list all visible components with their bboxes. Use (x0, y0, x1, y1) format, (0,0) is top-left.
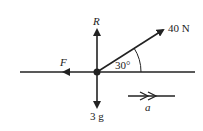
angle-arc (134, 48, 141, 72)
angle-label: 30° (115, 59, 130, 71)
particle (94, 69, 101, 76)
weight-label: 3 g (90, 110, 104, 122)
applied-force-label: 40 N (168, 22, 190, 34)
force-diagram: R 40 N F 3 g 30° a (0, 0, 203, 131)
acceleration-label: a (145, 101, 151, 113)
friction-arrowhead (62, 68, 70, 76)
friction-label: F (59, 56, 67, 68)
reaction-label: R (92, 15, 100, 27)
